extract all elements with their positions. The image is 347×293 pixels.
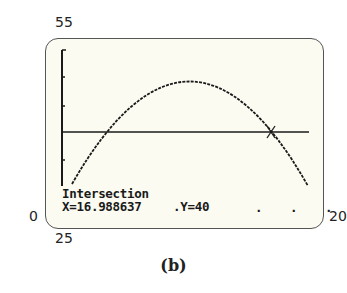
intersection-y-value: .Y=40 — [173, 200, 209, 213]
ellipsis-dots: . . . — [255, 201, 343, 214]
figure-caption: (b) — [0, 256, 347, 275]
intersection-x-value: X=16.988637 — [62, 200, 141, 213]
graph-plot — [0, 0, 347, 293]
